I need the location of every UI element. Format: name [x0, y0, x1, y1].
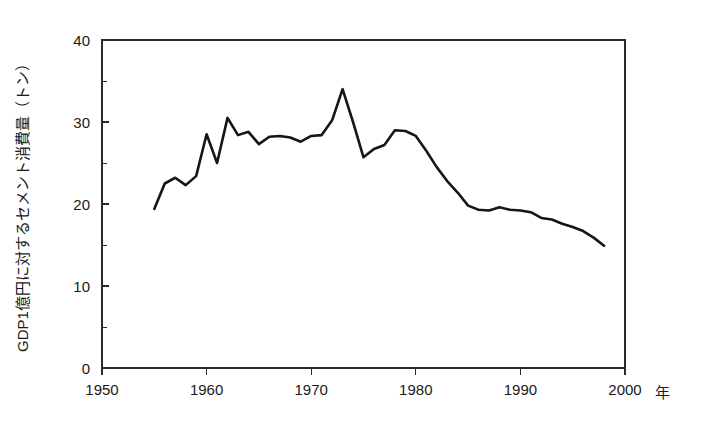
y-tick-label: 0 — [82, 360, 90, 377]
line-chart: 010203040 195019601970198019902000 GDP1億… — [0, 0, 709, 433]
x-tick-label: 1950 — [85, 381, 118, 398]
x-axis-unit-label: 年 — [655, 384, 670, 401]
y-tick-label: 10 — [73, 278, 90, 295]
y-axis-title: GDP1億円に対するセメント消費量（トン） — [14, 56, 31, 352]
x-tick-label: 1980 — [399, 381, 432, 398]
x-tick-label: 2000 — [608, 381, 641, 398]
chart-figure: 010203040 195019601970198019902000 GDP1億… — [0, 0, 709, 433]
y-tick-label: 40 — [73, 32, 90, 49]
x-tick-label: 1970 — [295, 381, 328, 398]
x-tick-label: 1960 — [190, 381, 223, 398]
x-tick-label: 1990 — [504, 381, 537, 398]
y-tick-label: 30 — [73, 114, 90, 131]
y-tick-label: 20 — [73, 196, 90, 213]
